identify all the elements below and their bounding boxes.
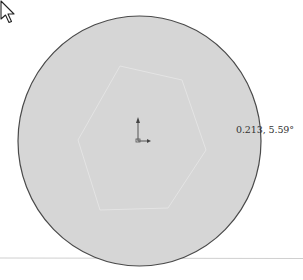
sketch-viewport[interactable]: 0.213, 5.59° [0,0,303,280]
sketch-canvas[interactable] [0,0,303,280]
mouse-pointer-icon [0,0,16,24]
coordinate-readout: 0.213, 5.59° [236,124,294,135]
